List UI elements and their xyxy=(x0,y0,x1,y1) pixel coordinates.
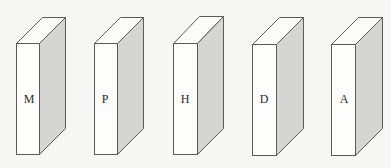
box-p: P xyxy=(95,18,144,155)
box-label: D xyxy=(260,92,269,106)
box-a: A xyxy=(332,18,383,156)
box-label: P xyxy=(102,92,109,106)
box-m: M xyxy=(17,18,66,155)
diagram-canvas: M P H D A xyxy=(0,0,391,168)
box-label: H xyxy=(181,92,190,106)
box-d: D xyxy=(253,18,304,156)
boxes-diagram: M P H D A xyxy=(0,0,391,168)
box-h: H xyxy=(174,17,224,155)
box-label: M xyxy=(24,92,35,106)
box-label: A xyxy=(340,92,349,106)
